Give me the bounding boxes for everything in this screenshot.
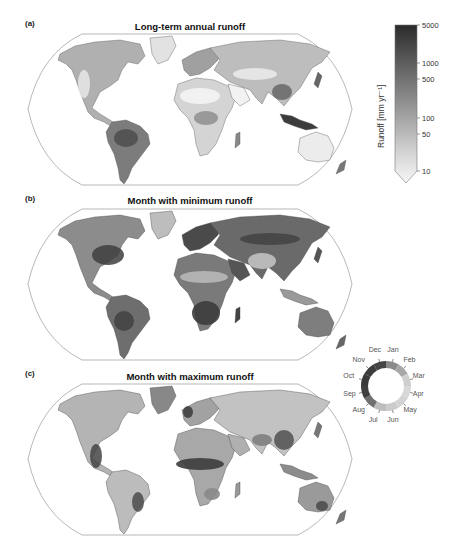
map-panel-c: [28, 384, 352, 535]
map-panel-a: [28, 34, 352, 185]
figure-canvas: [0, 0, 449, 551]
month-label: Sep: [343, 390, 355, 397]
colorbar-tick: 5000: [422, 21, 439, 30]
colorbar-tick: 10: [422, 167, 430, 176]
colorbar-tick: 100: [422, 114, 435, 123]
month-label: Apr: [413, 390, 424, 397]
colorbar-tick: 500: [422, 75, 435, 84]
month-label: Jan: [387, 346, 398, 353]
month-label: Mar: [413, 372, 425, 379]
map-panel-b: [28, 209, 352, 360]
month-label: Jul: [369, 416, 378, 423]
month-label: Oct: [343, 372, 354, 379]
month-label: May: [403, 406, 416, 413]
runoff-colorbar: [395, 25, 420, 183]
month-label: Jun: [387, 416, 398, 423]
colorbar-label: Runoff [mm yr⁻¹]: [376, 85, 386, 148]
month-label: Dec: [369, 346, 381, 353]
month-label: Nov: [353, 356, 365, 363]
month-label: Aug: [353, 406, 365, 413]
colorbar-tick: 1000: [422, 59, 439, 68]
colorbar-tick: 50: [422, 130, 430, 139]
month-label: Feb: [403, 356, 415, 363]
month-wheel: [359, 359, 413, 413]
